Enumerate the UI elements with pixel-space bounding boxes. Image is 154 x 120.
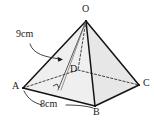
measurement-label-base: 8cm [40,99,57,109]
vertex-dot-A [22,87,24,89]
vertex-label-B: B [93,107,100,117]
pyramid-svg [0,0,154,120]
vertex-label-C: C [143,78,150,88]
vertex-dot-C [138,84,140,86]
pyramid-figure: O A B C D 9cm 8cm [0,0,154,120]
measurement-label-slant: 9cm [16,29,33,39]
vertex-label-O: O [82,4,89,14]
base-leader-right-arc [66,105,93,108]
vertex-label-A: A [12,81,19,91]
vertex-label-D: D [70,64,77,74]
vertex-dot-O [85,20,87,22]
